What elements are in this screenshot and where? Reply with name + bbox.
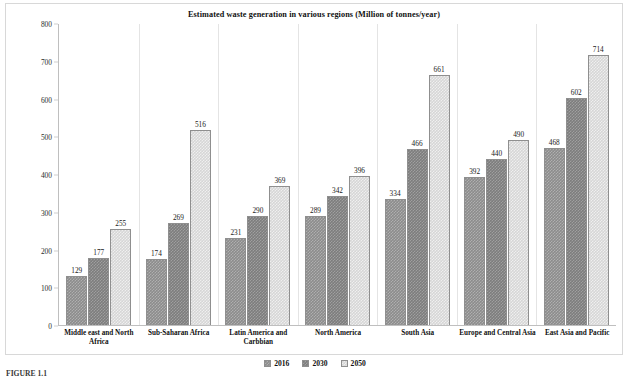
bar-value-label: 490 <box>513 130 524 139</box>
bar[interactable]: 516 <box>190 130 211 325</box>
legend-swatch <box>264 360 271 367</box>
bar-value-label: 342 <box>332 186 343 195</box>
y-axis-tick-label: 200 <box>16 246 52 255</box>
bar-value-label: 177 <box>93 248 104 257</box>
bar[interactable]: 269 <box>168 223 189 325</box>
x-axis-category-label: Europe and Central Asia <box>458 329 538 347</box>
bar[interactable]: 290 <box>247 216 268 325</box>
bar-group: 334466661 <box>377 24 457 325</box>
y-axis-tick-mark <box>54 212 58 213</box>
bar-value-label: 602 <box>571 88 582 97</box>
bar-value-label: 369 <box>274 176 285 185</box>
bar[interactable]: 255 <box>110 229 131 325</box>
bar-group: 289342396 <box>298 24 378 325</box>
x-axis-line <box>58 325 616 326</box>
y-axis-tick-label: 700 <box>16 57 52 66</box>
bar[interactable]: 177 <box>88 258 109 325</box>
plot-area: 0100200300400500600700800 12917725517426… <box>58 24 616 326</box>
y-axis-tick-label: 800 <box>16 20 52 29</box>
bar-value-label: 661 <box>434 65 445 74</box>
bar[interactable]: 602 <box>566 98 587 325</box>
bar-value-label: 396 <box>354 166 365 175</box>
bar-value-label: 289 <box>310 206 321 215</box>
bar[interactable]: 661 <box>429 75 450 325</box>
x-axis-category-label: Sub-Saharan Africa <box>139 329 219 347</box>
bar-value-label: 392 <box>469 167 480 176</box>
bar[interactable]: 466 <box>407 149 428 325</box>
bar-group: 174269516 <box>139 24 219 325</box>
bar[interactable]: 468 <box>544 148 565 325</box>
legend-label: 2050 <box>351 359 366 368</box>
bar-value-label: 269 <box>173 213 184 222</box>
y-axis-tick-label: 500 <box>16 133 52 142</box>
y-axis-tick-mark <box>54 288 58 289</box>
bar-group: 129177255 <box>59 24 139 325</box>
bar-groups: 1291772551742695162312903692893423963344… <box>59 24 616 325</box>
chart-figure: Estimated waste generation in various re… <box>5 3 623 355</box>
bar-value-label: 714 <box>593 45 604 54</box>
y-axis-tick-label: 300 <box>16 208 52 217</box>
x-axis-category-label: North America <box>298 329 378 347</box>
bar[interactable]: 289 <box>305 216 326 325</box>
y-axis-tick-mark <box>54 326 58 327</box>
bar-value-label: 290 <box>252 206 263 215</box>
bar-value-label: 334 <box>390 189 401 198</box>
legend-item[interactable]: 2016 <box>264 359 289 368</box>
legend-swatch <box>302 360 309 367</box>
bar-value-label: 129 <box>71 266 82 275</box>
bar[interactable]: 392 <box>464 177 485 325</box>
bar-value-label: 255 <box>115 219 126 228</box>
bar-group: 231290369 <box>218 24 298 325</box>
y-axis-tick-mark <box>54 24 58 25</box>
y-axis-tick-label: 100 <box>16 284 52 293</box>
bar[interactable]: 129 <box>66 276 87 325</box>
figure-caption: FIGURE 1.1 <box>6 369 622 377</box>
bar[interactable]: 174 <box>146 259 167 325</box>
x-axis-category-label: Latin America and Carbbian <box>218 329 298 347</box>
y-axis-tick-label: 400 <box>16 171 52 180</box>
bar-group: 392440490 <box>457 24 537 325</box>
y-axis-tick-mark <box>54 250 58 251</box>
x-axis-category-label: East Asia and Pacific <box>537 329 617 347</box>
bar[interactable]: 714 <box>588 55 609 325</box>
y-axis-tick-mark <box>54 99 58 100</box>
bar[interactable]: 490 <box>508 140 529 325</box>
y-axis-tick-label: 0 <box>16 322 52 331</box>
bar-value-label: 466 <box>412 139 423 148</box>
legend-label: 2030 <box>312 359 327 368</box>
bar[interactable]: 231 <box>225 238 246 325</box>
x-axis-category-labels: Middle east and North AfricaSub-Saharan … <box>59 329 617 347</box>
bar[interactable]: 369 <box>269 186 290 325</box>
y-axis-tick-mark <box>54 137 58 138</box>
y-axis-tick-mark <box>54 175 58 176</box>
y-axis-tick-label: 600 <box>16 95 52 104</box>
bar-value-label: 231 <box>230 228 241 237</box>
bar-value-label: 440 <box>491 149 502 158</box>
legend-item[interactable]: 2030 <box>302 359 327 368</box>
legend-item[interactable]: 2050 <box>341 359 366 368</box>
bar[interactable]: 396 <box>349 176 370 325</box>
bar-value-label: 516 <box>195 120 206 129</box>
bar[interactable]: 342 <box>327 196 348 325</box>
legend-label: 2016 <box>274 359 289 368</box>
bar[interactable]: 440 <box>486 159 507 325</box>
x-axis-category-label: South Asia <box>378 329 458 347</box>
bar[interactable]: 334 <box>385 199 406 325</box>
chart-title: Estimated waste generation in various re… <box>6 10 622 19</box>
y-axis-tick-mark <box>54 61 58 62</box>
bar-value-label: 174 <box>151 249 162 258</box>
legend-swatch <box>341 360 348 367</box>
bar-group: 468602714 <box>536 24 616 325</box>
x-axis-category-label: Middle east and North Africa <box>59 329 139 347</box>
bar-value-label: 468 <box>549 138 560 147</box>
chart-legend: 201620302050 <box>6 359 624 368</box>
